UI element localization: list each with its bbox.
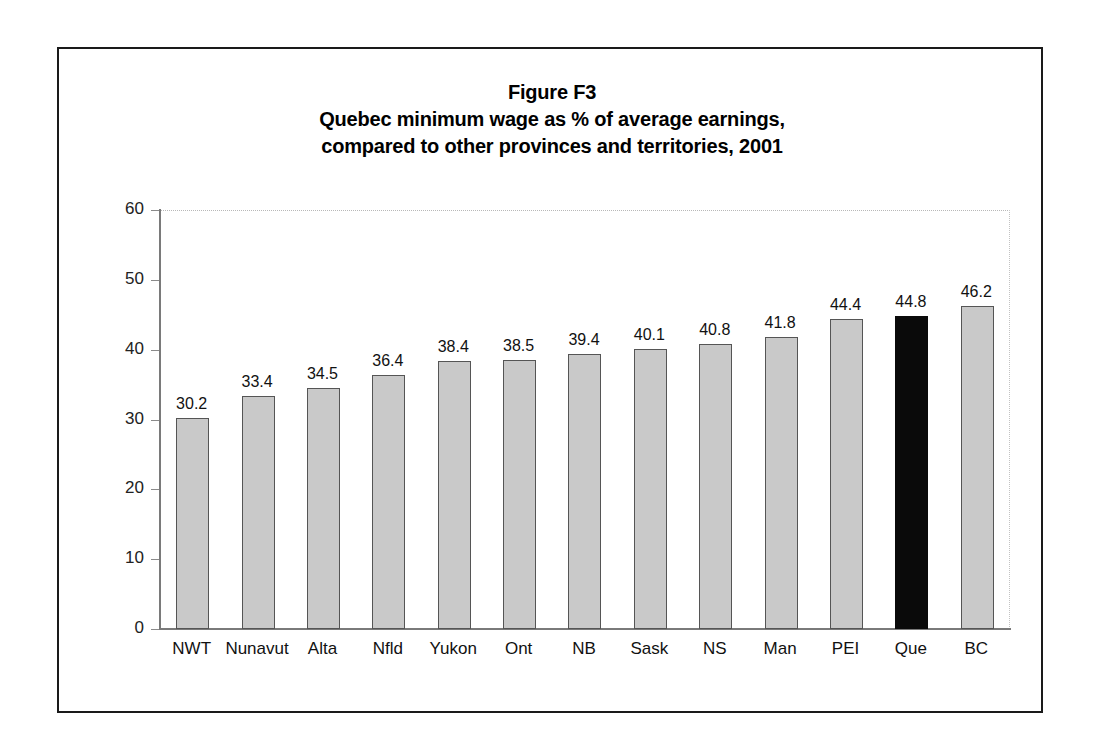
- title-line-3: compared to other provinces and territor…: [59, 133, 1045, 160]
- bar-value-label: 38.4: [421, 338, 486, 356]
- bar-value-label: 30.2: [159, 395, 224, 413]
- bar-group[interactable]: 30.2NWT: [160, 210, 225, 629]
- bar-group[interactable]: 36.4Nfld: [356, 210, 421, 629]
- bar[interactable]: [568, 354, 601, 629]
- y-axis-tick-mark: [151, 350, 159, 351]
- bar[interactable]: [307, 388, 340, 629]
- bar-group[interactable]: 40.1Sask: [618, 210, 683, 629]
- bar-series-layer: 30.2NWT33.4Nunavut34.5Alta36.4Nfld38.4Yu…: [160, 210, 1010, 629]
- bar[interactable]: [503, 360, 536, 629]
- bar[interactable]: [634, 349, 667, 629]
- x-axis-category-label: Alta: [290, 639, 355, 659]
- bar-group[interactable]: 44.4PEI: [814, 210, 879, 629]
- bar-value-label: 33.4: [224, 373, 289, 391]
- title-line-2: Quebec minimum wage as % of average earn…: [59, 106, 1045, 133]
- x-axis-category-label: BC: [944, 639, 1009, 659]
- bar[interactable]: [438, 361, 471, 629]
- figure-border-frame: Figure F3 Quebec minimum wage as % of av…: [57, 47, 1043, 713]
- bar-group[interactable]: 38.5Ont: [487, 210, 552, 629]
- bar-value-label: 34.5: [290, 365, 355, 383]
- x-axis-category-label: NB: [551, 639, 616, 659]
- x-axis-category-label: Nunavut: [224, 639, 289, 659]
- bar-group[interactable]: 34.5Alta: [291, 210, 356, 629]
- bar[interactable]: [765, 337, 798, 629]
- x-axis-category-label: Sask: [617, 639, 682, 659]
- x-axis-category-label: Yukon: [421, 639, 486, 659]
- y-axis-tick-label: 30: [125, 409, 144, 429]
- bar-group[interactable]: 41.8Man: [748, 210, 813, 629]
- bar-value-label: 38.5: [486, 337, 551, 355]
- bar-group[interactable]: 44.8Que: [879, 210, 944, 629]
- y-axis-tick-mark: [151, 210, 159, 211]
- y-axis-tick-mark: [151, 489, 159, 490]
- bar[interactable]: [830, 319, 863, 629]
- bar-value-label: 46.2: [944, 283, 1009, 301]
- bar-group[interactable]: 33.4Nunavut: [225, 210, 290, 629]
- bar-group[interactable]: 38.4Yukon: [422, 210, 487, 629]
- bar[interactable]: [961, 306, 994, 629]
- x-axis-category-label: NS: [682, 639, 747, 659]
- x-axis-category-label: Que: [878, 639, 943, 659]
- y-axis-tick-label: 10: [125, 548, 144, 568]
- bar[interactable]: [242, 396, 275, 629]
- bar[interactable]: [176, 418, 209, 629]
- y-axis-tick-label: 60: [125, 199, 144, 219]
- bar-value-label: 40.1: [617, 326, 682, 344]
- bar-value-label: 36.4: [355, 352, 420, 370]
- bar-group[interactable]: 40.8NS: [683, 210, 748, 629]
- bar-value-label: 40.8: [682, 321, 747, 339]
- y-axis-tick-label: 50: [125, 269, 144, 289]
- figure-root: Figure F3 Quebec minimum wage as % of av…: [0, 0, 1103, 755]
- y-axis-tick-mark: [151, 280, 159, 281]
- y-axis-tick-label: 20: [125, 478, 144, 498]
- x-axis-category-label: Nfld: [355, 639, 420, 659]
- bar-value-label: 41.8: [747, 314, 812, 332]
- bar-value-label: 44.4: [813, 296, 878, 314]
- y-axis-tick-label: 40: [125, 339, 144, 359]
- x-axis-category-label: Man: [747, 639, 812, 659]
- y-axis-tick-mark: [151, 559, 159, 560]
- title-line-1: Figure F3: [59, 79, 1045, 106]
- bar-group[interactable]: 46.2BC: [945, 210, 1010, 629]
- figure-title: Figure F3 Quebec minimum wage as % of av…: [59, 79, 1045, 160]
- bar[interactable]: [372, 375, 405, 629]
- bar[interactable]: [699, 344, 732, 629]
- y-axis-tick-label: 0: [135, 618, 144, 638]
- x-axis-category-label: NWT: [159, 639, 224, 659]
- bar-group[interactable]: 39.4NB: [552, 210, 617, 629]
- y-axis-tick-mark: [151, 629, 159, 630]
- bar-highlighted[interactable]: [895, 316, 928, 629]
- bar-value-label: 39.4: [551, 331, 616, 349]
- x-axis-category-label: PEI: [813, 639, 878, 659]
- y-axis-tick-mark: [151, 420, 159, 421]
- bar-value-label: 44.8: [878, 293, 943, 311]
- x-axis-category-label: Ont: [486, 639, 551, 659]
